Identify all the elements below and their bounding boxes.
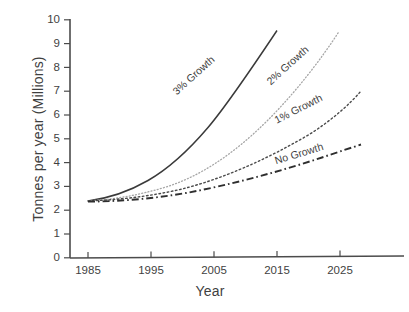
series-label-3-percent-growth: 3% Growth	[170, 53, 217, 97]
y-tick-label: 10	[38, 13, 60, 25]
series-label-1-percent-growth: 1% Growth	[272, 91, 324, 125]
y-tick-label: 4	[38, 156, 60, 168]
x-axis-line	[70, 256, 404, 258]
x-tick-label: 2015	[257, 264, 297, 276]
y-tick-label: 2	[38, 203, 60, 215]
y-axis-ticks	[64, 20, 70, 258]
x-tick-label: 2025	[320, 264, 360, 276]
series-label-no-growth: No Growth	[273, 140, 325, 166]
y-tick-label: 9	[38, 37, 60, 49]
y-tick-label: 7	[38, 84, 60, 96]
series-line-no-growth	[88, 145, 361, 202]
y-tick-label: 3	[38, 179, 60, 191]
x-axis-title: Year	[150, 283, 270, 299]
chart-figure: Tonnes per year (Millions) Year 10 9 8 7…	[0, 0, 409, 312]
x-tick-label: 1995	[131, 264, 171, 276]
y-tick-label: 6	[38, 108, 60, 120]
y-tick-label: 0	[38, 251, 60, 263]
y-tick-label: 1	[38, 227, 60, 239]
y-tick-label: 8	[38, 61, 60, 73]
x-tick-label: 2005	[194, 264, 234, 276]
series-line-3-percent-growth	[88, 31, 277, 201]
y-tick-label: 5	[38, 132, 60, 144]
x-tick-label: 1985	[68, 264, 108, 276]
